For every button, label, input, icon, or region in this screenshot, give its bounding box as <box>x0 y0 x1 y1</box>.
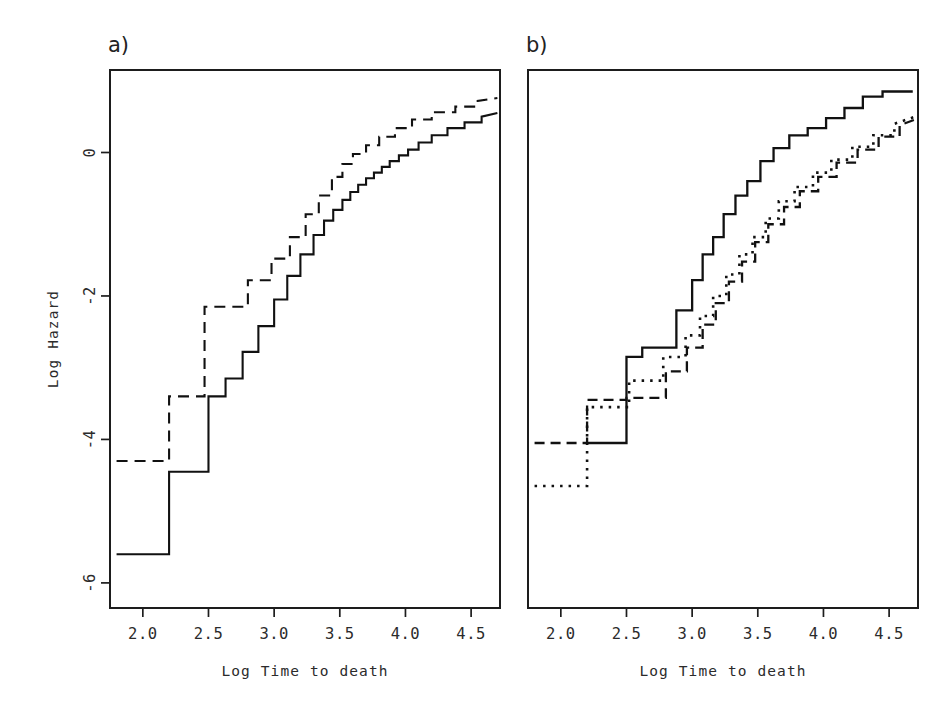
x-tick-label: 2.0 <box>128 625 158 643</box>
x-tick-label: 3.0 <box>677 625 707 643</box>
x-tick-label: 2.5 <box>612 625 642 643</box>
x-tick-label: 4.5 <box>874 625 904 643</box>
x-tick-label: 2.5 <box>194 625 224 643</box>
figure-root: a) 2.02.53.03.54.04.5 0-2-4-6 Log Time t… <box>0 0 942 715</box>
x-tick-label: 2.0 <box>546 625 576 643</box>
panel-b-x-axis-title: Log Time to death <box>639 663 806 679</box>
panel-a-y-axis-title: Log Hazard <box>45 290 61 388</box>
y-tick-label: 0 <box>81 148 99 158</box>
x-tick-label: 3.5 <box>325 625 355 643</box>
x-tick-label: 3.5 <box>743 625 773 643</box>
x-tick-label: 4.0 <box>809 625 839 643</box>
y-tick-label: -6 <box>81 573 99 593</box>
panel-b-tag: b) <box>526 33 548 57</box>
x-tick-label: 4.5 <box>456 625 486 643</box>
y-tick-label: -4 <box>81 430 99 450</box>
x-tick-label: 4.0 <box>391 625 421 643</box>
y-tick-label: -2 <box>81 286 99 306</box>
panel-a-x-axis-title: Log Time to death <box>221 663 388 679</box>
chart-svg: a) 2.02.53.03.54.04.5 0-2-4-6 Log Time t… <box>0 0 942 715</box>
panel-a-tag: a) <box>108 33 129 57</box>
x-tick-label: 3.0 <box>259 625 289 643</box>
